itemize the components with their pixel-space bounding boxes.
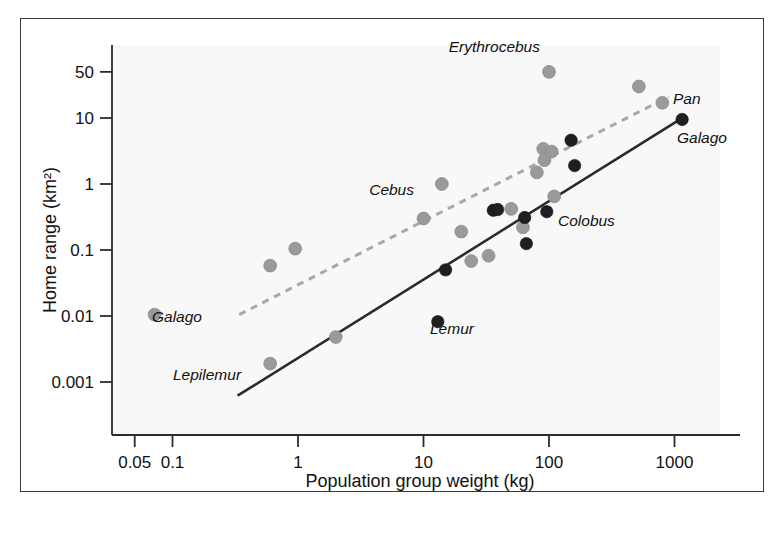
data-point-gray — [543, 65, 556, 78]
data-point-dark — [520, 237, 532, 249]
x-tick-label: 1 — [293, 453, 302, 472]
data-point-gray — [545, 145, 558, 158]
x-tick-label: 1000 — [656, 453, 694, 472]
data-point-dark — [676, 113, 688, 125]
data-point-dark — [439, 264, 451, 276]
y-tick-label: 50 — [75, 63, 94, 82]
data-point-gray — [264, 259, 277, 272]
annotation-label: Lepilemur — [173, 366, 242, 383]
data-point-dark — [568, 159, 580, 171]
y-tick-label: 0.01 — [61, 307, 94, 326]
y-tick-label: 0.1 — [70, 241, 94, 260]
annotation-label: Pan — [673, 90, 701, 107]
scatter-plot: 501010.10.010.001 0.050.11101001000 Eryt… — [0, 0, 784, 533]
y-axis-title: Home range (km²) — [40, 167, 60, 313]
data-point-gray — [435, 178, 448, 191]
annotation-label: Galago — [677, 129, 727, 146]
data-point-gray — [505, 202, 518, 215]
annotation-label: Colobus — [558, 212, 615, 229]
data-point-gray — [482, 249, 495, 262]
y-tick-label: 10 — [75, 109, 94, 128]
annotation-label: Galago — [152, 308, 202, 325]
y-tick-group: 501010.10.010.001 — [51, 63, 112, 392]
annotation-label: Cebus — [369, 181, 414, 198]
data-point-dark — [518, 211, 530, 223]
y-tick-label: 1 — [85, 175, 94, 194]
x-tick-label: 100 — [535, 453, 563, 472]
data-point-dark — [541, 206, 553, 218]
y-tick-label: 0.001 — [51, 373, 94, 392]
x-tick-label: 0.1 — [161, 453, 185, 472]
data-point-gray — [465, 255, 478, 268]
x-tick-label: 10 — [414, 453, 433, 472]
data-point-gray — [329, 331, 342, 344]
x-axis-title: Population group weight (kg) — [305, 471, 534, 491]
data-point-dark — [491, 203, 503, 215]
data-point-dark — [565, 134, 577, 146]
annotation-label: Lemur — [430, 320, 475, 337]
data-point-gray — [264, 357, 277, 370]
data-point-gray — [548, 190, 561, 203]
x-tick-label: 0.05 — [118, 453, 151, 472]
chart-container: 501010.10.010.001 0.050.11101001000 Eryt… — [0, 0, 784, 533]
data-point-gray — [530, 166, 543, 179]
data-point-gray — [289, 242, 302, 255]
data-point-gray — [632, 80, 645, 93]
data-point-gray — [417, 212, 430, 225]
x-tick-group: 0.050.11101001000 — [118, 435, 693, 472]
data-point-gray — [455, 225, 468, 238]
data-point-gray — [656, 96, 669, 109]
annotation-label: Erythrocebus — [449, 38, 541, 55]
